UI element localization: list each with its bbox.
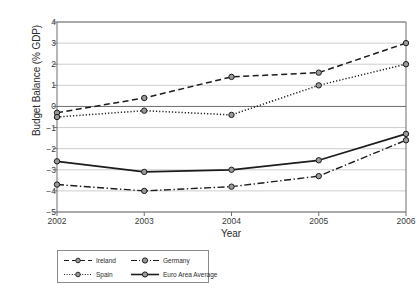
data-point-germany bbox=[316, 173, 321, 178]
legend-key-spain bbox=[63, 270, 93, 279]
data-point-euro-area-average bbox=[403, 131, 408, 136]
legend-item-spain[interactable]: Spain bbox=[63, 270, 113, 279]
legend-item-euro-area-average[interactable]: Euro Area Average bbox=[130, 270, 217, 279]
legend: Ireland Spain Germany Euro Area Average bbox=[57, 250, 209, 283]
data-point-germany bbox=[229, 184, 234, 189]
data-point-euro-area-average bbox=[229, 167, 234, 172]
data-point-germany bbox=[54, 182, 59, 187]
legend-item-germany[interactable]: Germany bbox=[130, 256, 190, 265]
data-point-spain bbox=[316, 83, 321, 88]
data-point-spain bbox=[142, 108, 147, 113]
data-point-germany bbox=[403, 138, 408, 143]
legend-key-ireland bbox=[63, 256, 93, 265]
data-point-ireland bbox=[142, 95, 147, 100]
series-line-spain bbox=[57, 64, 406, 117]
data-point-euro-area-average bbox=[316, 158, 321, 163]
legend-label-spain: Spain bbox=[96, 271, 113, 278]
legend-label-germany: Germany bbox=[163, 257, 190, 264]
series-line-euro-area-average bbox=[57, 134, 406, 172]
legend-key-euro-area-average bbox=[130, 270, 160, 279]
legend-item-ireland[interactable]: Ireland bbox=[63, 256, 116, 265]
series-line-germany bbox=[57, 140, 406, 191]
data-point-euro-area-average bbox=[142, 169, 147, 174]
data-point-ireland bbox=[229, 74, 234, 79]
data-point-spain bbox=[229, 112, 234, 117]
data-point-ireland bbox=[316, 70, 321, 75]
data-point-spain bbox=[403, 62, 408, 67]
data-point-germany bbox=[142, 188, 147, 193]
data-point-spain bbox=[54, 114, 59, 119]
data-point-ireland bbox=[403, 40, 408, 45]
chart-container: Budget Balance (% GDP) 43210−1−2−3−4−5 2… bbox=[0, 0, 417, 295]
legend-label-euro-area-average: Euro Area Average bbox=[163, 271, 217, 278]
legend-key-germany bbox=[130, 256, 160, 265]
legend-label-ireland: Ireland bbox=[96, 257, 116, 264]
data-point-euro-area-average bbox=[54, 159, 59, 164]
